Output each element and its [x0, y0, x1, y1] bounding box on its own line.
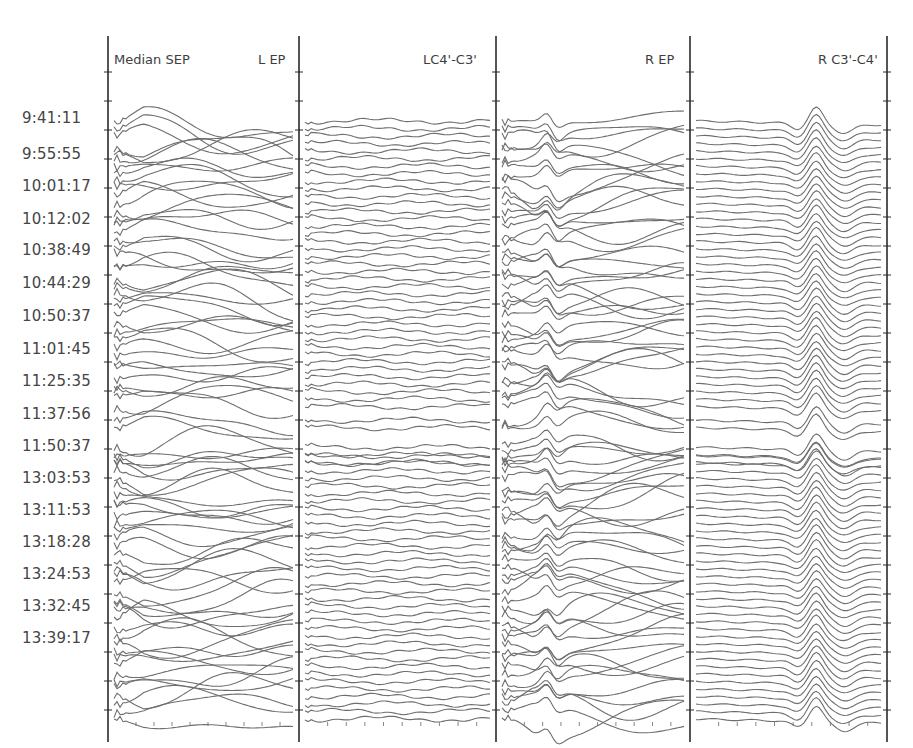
waveform-trace [305, 268, 490, 274]
waveform-trace [305, 132, 490, 139]
waveform-trace [502, 457, 684, 474]
waveform-trace [305, 321, 490, 327]
waveform-trace [305, 186, 490, 192]
waveform-trace [305, 490, 490, 496]
waveform-trace [696, 518, 881, 542]
waveform-trace [696, 660, 881, 687]
waveform-trace [696, 487, 881, 513]
waveform-trace [305, 366, 490, 373]
waveform-trace [114, 607, 293, 618]
waveform-trace [114, 362, 293, 377]
waveform-trace [305, 238, 490, 244]
waveform-trace [696, 303, 881, 329]
panel-traces-left-cortical [305, 118, 490, 722]
waveform-trace [696, 244, 881, 268]
waveform-trace [305, 140, 490, 146]
waveform-trace [502, 348, 684, 382]
waveform-trace [502, 700, 684, 744]
waveform-trace [305, 716, 490, 722]
waveform-trace [305, 596, 490, 602]
waveform-trace [696, 122, 881, 149]
waveform-trace [305, 231, 490, 237]
waveform-trace [305, 261, 490, 267]
waveform-trace [114, 210, 293, 225]
waveform-trace [502, 174, 684, 210]
waveform-trace [305, 626, 490, 632]
waveform-trace [502, 528, 684, 545]
waveform-trace [114, 331, 293, 354]
waveform-trace [305, 276, 490, 283]
waveform-trace [305, 336, 490, 342]
waveform-trace [114, 107, 293, 138]
waveform-trace [696, 288, 881, 314]
waveform-trace [696, 631, 881, 655]
waveform-trace [696, 601, 881, 627]
waveform-trace [305, 387, 490, 394]
waveform-trace [305, 505, 490, 512]
waveform-trace [305, 118, 490, 124]
waveform-trace [305, 314, 490, 320]
waveform-trace [305, 647, 490, 654]
waveform-trace [114, 319, 293, 337]
waveform-trace [696, 571, 881, 597]
waveform-trace [502, 439, 684, 454]
waveform-trace [305, 610, 490, 617]
waveform-trace [305, 566, 490, 572]
waveform-trace [305, 701, 490, 708]
waveform-trace [502, 553, 684, 581]
waveform-trace [305, 396, 490, 402]
waveform-trace [305, 551, 490, 557]
waveform-trace [305, 163, 490, 170]
waveform-trace [305, 148, 490, 154]
waveform-trace [305, 246, 490, 252]
waveform-trace [305, 686, 490, 692]
waveform-trace [114, 137, 293, 157]
waveform-trace [502, 392, 684, 429]
waveform-trace [114, 694, 293, 718]
waveform-trace [502, 125, 684, 157]
waveform-trace [114, 453, 293, 466]
waveform-trace [696, 191, 881, 217]
waveform-trace [305, 125, 490, 131]
panel-traces-left-ep [114, 107, 293, 729]
waveform-trace [502, 296, 684, 315]
waveform-trace [305, 678, 490, 685]
waveform-trace [305, 476, 490, 482]
waveform-trace [305, 581, 490, 588]
waveform-trace [696, 579, 881, 604]
waveform-trace [502, 648, 684, 675]
panel-traces-right-ep [502, 111, 684, 744]
waveform-trace [305, 291, 490, 297]
waveform-trace [502, 124, 684, 141]
waveform-trace [696, 205, 881, 232]
waveform-trace [305, 588, 490, 594]
waveform-trace [305, 528, 490, 535]
waveform-trace [305, 633, 490, 639]
waveform-trace [305, 374, 490, 380]
waveform-trace [305, 178, 490, 185]
waveform-trace [502, 474, 684, 495]
waveform-trace [305, 663, 490, 670]
waveform-trace [696, 624, 881, 648]
waveform-trace [502, 625, 684, 641]
waveform-trace [502, 254, 684, 268]
waveform-trace [305, 299, 490, 305]
waveform-trace [305, 215, 490, 222]
waveform-trace [502, 698, 684, 733]
waveform-trace [696, 169, 881, 194]
waveform-trace [305, 656, 490, 662]
waveform-trace [305, 708, 490, 714]
waveform-trace [502, 210, 684, 244]
waveform-trace [114, 579, 293, 616]
waveform-trace [114, 657, 293, 687]
waveform-trace [305, 254, 490, 260]
waveform-trace [114, 262, 293, 270]
waveform-trace [305, 156, 490, 162]
waveform-trace [305, 602, 490, 609]
waveform-trace [502, 564, 684, 610]
waveform-trace [696, 407, 881, 434]
waveform-trace [502, 473, 684, 508]
waveform-trace [502, 186, 684, 208]
waveform-trace [114, 549, 293, 584]
waveform-trace [502, 486, 684, 508]
